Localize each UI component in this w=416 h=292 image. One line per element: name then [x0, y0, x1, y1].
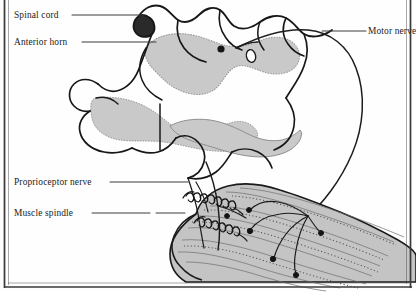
muscle-body — [170, 184, 416, 282]
label-proprioceptor-nerve: Proprioceptor nerve — [14, 177, 92, 187]
figure-page: Spinal cord Anterior horn Proprioceptor … — [0, 0, 416, 292]
label-spinal-cord: Spinal cord — [14, 10, 59, 20]
motor-neuron-soma — [217, 45, 224, 52]
label-anterior-horn: Anterior horn — [14, 37, 67, 47]
gray-matter — [91, 34, 302, 157]
label-muscle-spindle: Muscle spindle — [14, 208, 73, 218]
label-motor-nerve: Motor nerve — [368, 26, 416, 36]
